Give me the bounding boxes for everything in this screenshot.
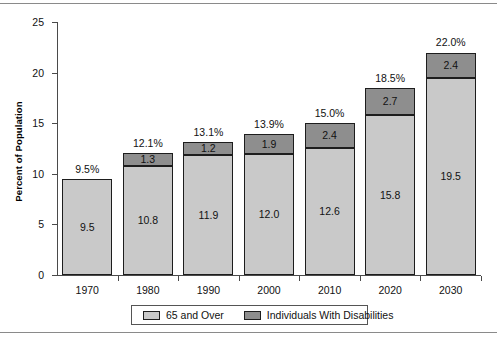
x-tick-2020 [420,276,421,281]
bar-total-label-2010: 15.0% [315,107,345,119]
chart-page: Percent of Population 0510152025 1970198… [0,0,497,342]
bar-segment-value: 1.3 [141,154,156,165]
legend-label: 65 and Over [166,309,224,321]
y-axis-title: Percent of Population [13,62,24,242]
bar-segment-2010-65-and-over[interactable]: 12.6 [305,148,355,276]
x-tick-label-2030: 2030 [439,284,462,296]
bar-segment-value: 2.4 [443,60,458,71]
legend-entry-disabilities[interactable]: Individuals With Disabilities [244,309,394,321]
x-tick-2000 [299,276,300,281]
bar-segment-1970-65-and-over[interactable]: 9.5 [62,179,112,275]
x-tick-2030 [481,276,482,281]
legend-swatch-icon [143,311,160,320]
y-tick-5: 5 [52,224,57,225]
page-rule-bottom [0,332,497,333]
bar-segment-value: 2.7 [383,96,398,107]
y-axis-line [57,22,58,276]
bar-segment-value: 1.9 [262,139,277,150]
legend-label: Individuals With Disabilities [267,309,394,321]
y-tick-15: 15 [52,123,57,124]
y-tick-label-15: 15 [32,117,44,129]
x-tick-1990 [239,276,240,281]
bar-segment-1990-disabilities[interactable]: 1.2 [183,142,233,154]
bar-segment-2020-65-and-over[interactable]: 15.8 [365,115,415,275]
legend-entry-65-and-over[interactable]: 65 and Over [143,309,224,321]
bar-total-label-1980: 12.1% [133,137,163,149]
bar-total-label-1990: 13.1% [194,126,224,138]
y-tick-label-10: 10 [32,168,44,180]
bar-2030[interactable]: 19.52.422.0% [426,52,476,275]
bar-segment-value: 1.2 [201,143,216,154]
bar-segment-1980-disabilities[interactable]: 1.3 [123,153,173,166]
bar-segment-value: 2.4 [322,130,337,141]
bar-2010[interactable]: 12.62.415.0% [305,123,355,275]
x-tick-1970 [118,276,119,281]
bar-segment-value: 19.5 [440,171,460,182]
chart-legend: 65 and OverIndividuals With Disabilities [131,305,368,325]
bar-segment-2030-disabilities[interactable]: 2.4 [426,53,476,77]
page-rule-top [0,3,497,4]
bar-segment-2010-disabilities[interactable]: 2.4 [305,123,355,147]
bar-segment-value: 11.9 [199,210,219,221]
x-tick-1980 [178,276,179,281]
bar-segment-value: 9.5 [80,222,95,233]
bar-segment-1990-65-and-over[interactable]: 11.9 [183,155,233,275]
bar-1980[interactable]: 10.81.312.1% [123,153,173,275]
x-tick-label-1970: 1970 [76,284,99,296]
x-tick-label-2020: 2020 [378,284,401,296]
y-tick-0: 0 [52,275,57,276]
y-tick-20: 20 [52,73,57,74]
y-tick-label-20: 20 [32,67,44,79]
bar-total-label-2000: 13.9% [254,118,284,130]
x-tick-label-1980: 1980 [136,284,159,296]
bar-segment-value: 10.8 [138,215,158,226]
bar-2020[interactable]: 15.82.718.5% [365,88,415,275]
plot-area: 0510152025 1970198019902000201020202030 … [57,22,481,276]
y-tick-label-25: 25 [32,16,44,28]
bar-segment-value: 12.6 [319,206,339,217]
x-tick-label-2000: 2000 [257,284,280,296]
bar-total-label-2020: 18.5% [375,72,405,84]
bar-segment-2000-disabilities[interactable]: 1.9 [244,134,294,153]
legend-swatch-icon [244,311,261,320]
bar-segment-value: 15.8 [380,190,400,201]
bar-segment-value: 12.0 [259,209,279,220]
x-tick-label-2010: 2010 [318,284,341,296]
bar-1970[interactable]: 9.59.5% [62,179,112,275]
bar-segment-2030-65-and-over[interactable]: 19.5 [426,78,476,275]
x-tick-label-1990: 1990 [197,284,220,296]
bar-total-label-2030: 22.0% [436,36,466,48]
x-tick-2010 [360,276,361,281]
bar-segment-1980-65-and-over[interactable]: 10.8 [123,166,173,275]
bar-segment-2000-65-and-over[interactable]: 12.0 [244,154,294,275]
bar-total-label-1970: 9.5% [75,163,99,175]
y-tick-10: 10 [52,174,57,175]
y-tick-label-5: 5 [38,218,44,230]
y-tick-25: 25 [52,22,57,23]
bar-1990[interactable]: 11.91.213.1% [183,142,233,275]
bar-2000[interactable]: 12.01.913.9% [244,134,294,275]
bar-segment-2020-disabilities[interactable]: 2.7 [365,88,415,115]
y-tick-label-0: 0 [38,269,44,281]
x-axis-line [57,275,481,276]
